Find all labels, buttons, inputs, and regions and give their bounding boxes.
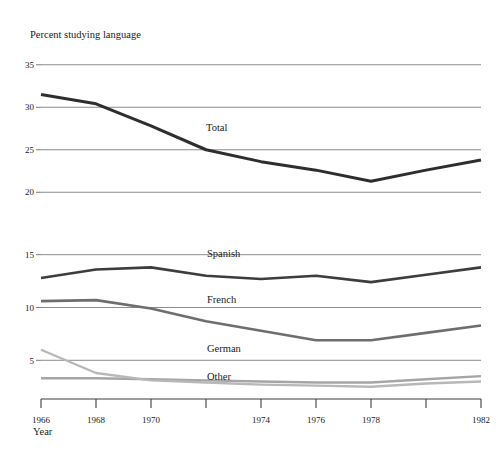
y-axis-tick-label: 15 xyxy=(25,250,35,260)
x-axis-tick-label: 1982 xyxy=(472,415,490,425)
y-axis-tick-label: 10 xyxy=(25,303,35,313)
x-axis-tick-label: 1974 xyxy=(252,415,271,425)
series-line-french xyxy=(41,300,481,340)
series-label-french: French xyxy=(207,294,237,305)
x-axis-title: Year xyxy=(33,426,53,437)
x-axis-labels: 1966196819701974197619781982 xyxy=(32,415,490,425)
y-axis-tick-label: 35 xyxy=(25,60,35,70)
x-axis-tick-label: 1968 xyxy=(87,415,106,425)
series-label-total: Total xyxy=(206,122,228,133)
y-axis-tick-label: 20 xyxy=(25,187,35,197)
series-line-german xyxy=(41,376,481,382)
series-label-other: Other xyxy=(207,371,231,382)
y-axis-tick-label: 30 xyxy=(25,102,35,112)
x-axis-tick-label: 1970 xyxy=(142,415,161,425)
y-axis-tick-label: 25 xyxy=(25,145,35,155)
series-label-german: German xyxy=(207,343,242,354)
series-line-spanish xyxy=(41,267,481,282)
gridlines-languages-panel xyxy=(36,255,481,361)
y-axis-labels-total-panel: 35302520 xyxy=(25,60,35,198)
x-axis-ticks xyxy=(41,399,481,408)
chart-figure: Percent studying language 35302520 15105… xyxy=(0,0,496,456)
language-study-line-chart: Percent studying language 35302520 15105… xyxy=(0,0,496,456)
y-axis-tick-label: 5 xyxy=(30,356,35,366)
x-axis-tick-label: 1966 xyxy=(32,415,51,425)
series-inline-labels: TotalSpanishFrenchGermanOther xyxy=(206,122,242,382)
x-axis-tick-label: 1978 xyxy=(362,415,381,425)
y-axis-labels-languages-panel: 15105 xyxy=(25,250,35,366)
x-axis-tick-label: 1976 xyxy=(307,415,326,425)
series-label-spanish: Spanish xyxy=(207,248,241,259)
y-axis-title: Percent studying language xyxy=(30,29,141,40)
series-lines-languages-panel xyxy=(41,267,481,386)
